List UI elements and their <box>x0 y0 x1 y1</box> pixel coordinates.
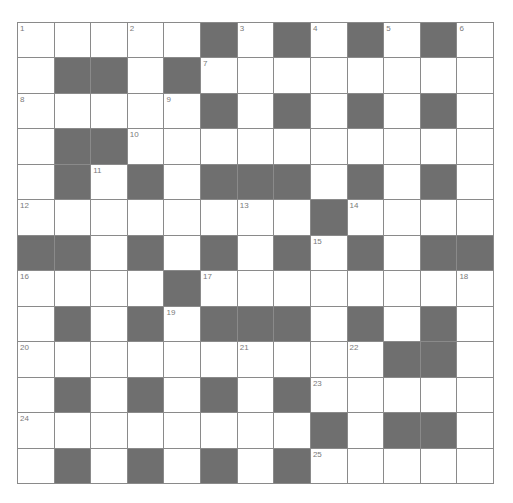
answer-cell[interactable] <box>164 378 200 412</box>
answer-cell[interactable] <box>457 307 493 341</box>
answer-cell[interactable] <box>164 413 200 447</box>
answer-cell[interactable] <box>18 449 54 483</box>
answer-cell[interactable] <box>91 23 127 57</box>
answer-cell[interactable] <box>384 200 420 234</box>
answer-cell[interactable] <box>91 307 127 341</box>
answer-cell[interactable] <box>348 129 384 163</box>
answer-cell[interactable]: 14 <box>348 200 384 234</box>
answer-cell[interactable] <box>164 129 200 163</box>
answer-cell[interactable] <box>348 449 384 483</box>
answer-cell[interactable] <box>164 342 200 376</box>
answer-cell[interactable] <box>457 413 493 447</box>
answer-cell[interactable] <box>384 129 420 163</box>
answer-cell[interactable]: 12 <box>18 200 54 234</box>
answer-cell[interactable] <box>238 58 274 92</box>
answer-cell[interactable] <box>238 236 274 270</box>
answer-cell[interactable] <box>384 165 420 199</box>
answer-cell[interactable] <box>201 200 237 234</box>
answer-cell[interactable] <box>128 271 164 305</box>
answer-cell[interactable] <box>55 271 91 305</box>
answer-cell[interactable] <box>201 413 237 447</box>
answer-cell[interactable]: 20 <box>18 342 54 376</box>
answer-cell[interactable] <box>384 307 420 341</box>
answer-cell[interactable]: 10 <box>128 129 164 163</box>
answer-cell[interactable] <box>164 449 200 483</box>
answer-cell[interactable] <box>55 342 91 376</box>
answer-cell[interactable] <box>457 342 493 376</box>
answer-cell[interactable] <box>311 271 347 305</box>
answer-cell[interactable] <box>384 94 420 128</box>
answer-cell[interactable] <box>238 449 274 483</box>
answer-cell[interactable]: 4 <box>311 23 347 57</box>
answer-cell[interactable] <box>384 449 420 483</box>
answer-cell[interactable] <box>457 58 493 92</box>
answer-cell[interactable] <box>421 449 457 483</box>
answer-cell[interactable] <box>311 58 347 92</box>
answer-cell[interactable] <box>201 342 237 376</box>
answer-cell[interactable] <box>274 271 310 305</box>
answer-cell[interactable] <box>457 200 493 234</box>
answer-cell[interactable] <box>384 271 420 305</box>
answer-cell[interactable] <box>348 413 384 447</box>
answer-cell[interactable] <box>457 94 493 128</box>
answer-cell[interactable]: 3 <box>238 23 274 57</box>
answer-cell[interactable] <box>457 449 493 483</box>
answer-cell[interactable]: 24 <box>18 413 54 447</box>
answer-cell[interactable]: 7 <box>201 58 237 92</box>
answer-cell[interactable] <box>128 58 164 92</box>
answer-cell[interactable] <box>384 378 420 412</box>
answer-cell[interactable] <box>91 449 127 483</box>
answer-cell[interactable] <box>274 413 310 447</box>
answer-cell[interactable] <box>128 200 164 234</box>
answer-cell[interactable] <box>91 413 127 447</box>
answer-cell[interactable] <box>128 94 164 128</box>
answer-cell[interactable] <box>238 129 274 163</box>
answer-cell[interactable]: 13 <box>238 200 274 234</box>
answer-cell[interactable] <box>274 58 310 92</box>
answer-cell[interactable] <box>91 200 127 234</box>
answer-cell[interactable] <box>201 129 237 163</box>
answer-cell[interactable] <box>164 165 200 199</box>
answer-cell[interactable] <box>91 94 127 128</box>
answer-cell[interactable] <box>18 378 54 412</box>
answer-cell[interactable] <box>18 165 54 199</box>
answer-cell[interactable] <box>238 271 274 305</box>
answer-cell[interactable] <box>18 307 54 341</box>
answer-cell[interactable]: 22 <box>348 342 384 376</box>
answer-cell[interactable] <box>91 271 127 305</box>
answer-cell[interactable] <box>421 200 457 234</box>
answer-cell[interactable] <box>421 378 457 412</box>
answer-cell[interactable]: 5 <box>384 23 420 57</box>
answer-cell[interactable] <box>128 413 164 447</box>
answer-cell[interactable] <box>238 94 274 128</box>
answer-cell[interactable] <box>421 129 457 163</box>
answer-cell[interactable] <box>128 342 164 376</box>
answer-cell[interactable] <box>55 94 91 128</box>
answer-cell[interactable]: 16 <box>18 271 54 305</box>
answer-cell[interactable]: 2 <box>128 23 164 57</box>
answer-cell[interactable] <box>18 58 54 92</box>
answer-cell[interactable] <box>311 342 347 376</box>
answer-cell[interactable]: 9 <box>164 94 200 128</box>
answer-cell[interactable]: 6 <box>457 23 493 57</box>
answer-cell[interactable] <box>457 129 493 163</box>
answer-cell[interactable] <box>55 200 91 234</box>
answer-cell[interactable] <box>311 165 347 199</box>
answer-cell[interactable] <box>274 342 310 376</box>
answer-cell[interactable] <box>91 342 127 376</box>
answer-cell[interactable] <box>384 236 420 270</box>
answer-cell[interactable]: 1 <box>18 23 54 57</box>
answer-cell[interactable]: 21 <box>238 342 274 376</box>
answer-cell[interactable]: 8 <box>18 94 54 128</box>
answer-cell[interactable] <box>238 413 274 447</box>
answer-cell[interactable] <box>238 378 274 412</box>
answer-cell[interactable] <box>348 378 384 412</box>
answer-cell[interactable]: 18 <box>457 271 493 305</box>
answer-cell[interactable]: 25 <box>311 449 347 483</box>
answer-cell[interactable] <box>421 271 457 305</box>
answer-cell[interactable]: 15 <box>311 236 347 270</box>
answer-cell[interactable] <box>164 23 200 57</box>
answer-cell[interactable] <box>55 413 91 447</box>
answer-cell[interactable]: 11 <box>91 165 127 199</box>
answer-cell[interactable] <box>18 129 54 163</box>
